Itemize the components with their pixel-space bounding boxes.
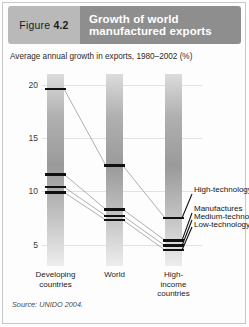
- series-connector: [123, 216, 165, 246]
- series-connector: [123, 209, 165, 240]
- category-column: [106, 74, 123, 266]
- figure-title-line-1: Growth of world: [89, 13, 212, 26]
- figure-label-prefix: Figure: [19, 19, 50, 31]
- figure-label-number: 4.2: [53, 19, 68, 31]
- x-axis-label-line: countries: [26, 280, 86, 290]
- series-marker: [163, 249, 184, 252]
- series-label-leader: [182, 220, 192, 246]
- series-label: High-technology: [194, 185, 249, 194]
- x-axis-label: World: [85, 270, 145, 280]
- x-axis-label-line: income: [144, 280, 204, 290]
- series-marker: [45, 173, 66, 176]
- series-marker: [104, 219, 125, 222]
- x-axis-label-line: High-: [144, 270, 204, 280]
- category-column: [165, 74, 182, 266]
- series-marker: [163, 217, 184, 220]
- x-axis-label: Developingcountries: [26, 270, 86, 289]
- figure-panel: Figure 4.2 Growth of world manufactured …: [0, 0, 249, 327]
- figure-header: Figure 4.2 Growth of world manufactured …: [8, 6, 241, 44]
- series-marker: [104, 215, 125, 218]
- chart-subtitle: Average annual growth in exports, 1980–2…: [10, 52, 192, 61]
- series-label: Low-technology: [194, 220, 249, 229]
- figure-number-label: Figure 4.2: [19, 19, 68, 31]
- y-axis-tick-label: 10: [10, 186, 38, 196]
- x-axis-label-line: Developing: [26, 270, 86, 280]
- series-label-leader: [182, 194, 192, 218]
- x-axis-label: High-incomecountries: [144, 270, 204, 299]
- y-axis-tick-label: 5: [10, 240, 38, 250]
- y-axis-tick-label: 15: [10, 133, 38, 143]
- series-connector-lines: [10, 68, 239, 290]
- series-marker: [104, 164, 125, 167]
- category-column: [47, 74, 64, 266]
- series-marker: [45, 186, 66, 189]
- x-axis-label-line: World: [85, 270, 145, 280]
- series-marker: [163, 239, 184, 242]
- source-note: Source: UNIDO 2004.: [12, 300, 83, 309]
- series-marker: [45, 191, 66, 194]
- series-connector: [64, 89, 106, 166]
- x-axis-label-line: countries: [144, 289, 204, 299]
- series-marker: [104, 208, 125, 211]
- series-marker: [45, 88, 66, 91]
- figure-title-band: Growth of world manufactured exports: [80, 6, 241, 44]
- series-marker: [163, 244, 184, 247]
- plot-area: 2015105 DevelopingcountriesWorldHigh-inc…: [10, 68, 239, 290]
- figure-title: Growth of world manufactured exports: [89, 13, 212, 38]
- figure-title-line-2: manufactured exports: [89, 25, 212, 38]
- y-axis-tick-label: 20: [10, 80, 38, 90]
- figure-number-tab: Figure 4.2: [8, 6, 80, 44]
- series-connector: [64, 192, 106, 220]
